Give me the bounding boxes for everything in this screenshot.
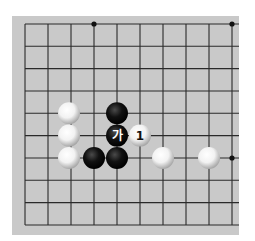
grid-lines <box>25 24 239 225</box>
stone-label: 가 <box>112 128 123 143</box>
star-point-icon <box>229 155 234 160</box>
white-stone[interactable] <box>198 147 220 169</box>
star-point-icon <box>91 21 96 26</box>
black-stone[interactable] <box>106 102 128 124</box>
white-stone[interactable] <box>152 147 174 169</box>
go-board-grid: 가1 <box>0 0 255 241</box>
black-stone[interactable]: 가 <box>106 125 128 147</box>
star-point-icon <box>229 21 234 26</box>
white-stone[interactable]: 1 <box>129 125 151 147</box>
stone-label: 1 <box>136 129 144 143</box>
white-stone[interactable] <box>58 102 80 124</box>
black-stone[interactable] <box>106 147 128 169</box>
white-stone[interactable] <box>58 147 80 169</box>
white-stone[interactable] <box>58 125 80 147</box>
black-stone[interactable] <box>83 147 105 169</box>
